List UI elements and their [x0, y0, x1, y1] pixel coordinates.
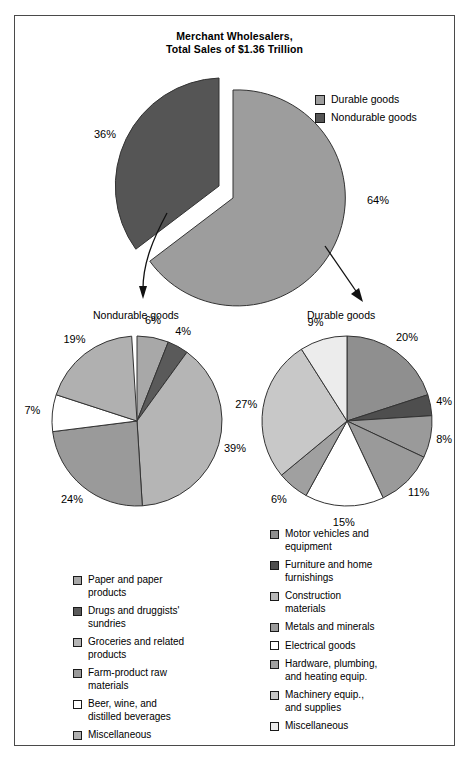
legend-label: Paper and paper products [88, 574, 163, 599]
legend-item: Electrical goods [270, 640, 435, 653]
legend-label: Furniture and home furnishings [285, 559, 372, 584]
legend-swatch [270, 641, 279, 650]
legend-item: Drugs and druggists' sundries [73, 605, 233, 630]
legend-label: Electrical goods [285, 640, 356, 653]
legend-swatch [270, 722, 279, 731]
pie-percent-label: 27% [235, 398, 257, 410]
legend-swatch [270, 691, 279, 700]
legend-item: Miscellaneous [73, 729, 233, 742]
legend-item: Metals and minerals [270, 621, 435, 634]
legend-item: Farm-product raw materials [73, 667, 233, 692]
legend-swatch [270, 561, 279, 570]
durable-legend: Motor vehicles and equipmentFurniture an… [270, 528, 435, 739]
legend-label-nondurable: Nondurable goods [331, 111, 417, 124]
legend-label: Groceries and related products [88, 636, 184, 661]
legend-label: Machinery equip., and supplies [285, 689, 364, 714]
legend-item: Miscellaneous [270, 720, 435, 733]
nondurable-legend: Paper and paper productsDrugs and druggi… [73, 574, 233, 748]
legend-label-durable: Durable goods [331, 93, 399, 106]
legend-swatch [270, 530, 279, 539]
legend-label: Hardware, plumbing, and heating equip. [285, 658, 377, 683]
pie-percent-label: 39% [224, 442, 246, 454]
pie-percent-label: 8% [436, 433, 452, 445]
legend-label: Miscellaneous [88, 729, 151, 742]
pie-slice [53, 421, 143, 506]
subchart-title-durable: Durable goods [307, 309, 375, 321]
pie-percent-label: 15% [333, 516, 355, 528]
legend-label: Metals and minerals [285, 621, 374, 634]
chart-frame: Merchant Wholesalers, Total Sales of $1.… [14, 15, 455, 746]
legend-swatch [73, 576, 82, 585]
page-title: Merchant Wholesalers, Total Sales of $1.… [15, 30, 454, 56]
pie-percent-label: 7% [24, 404, 40, 416]
legend-swatch [73, 669, 82, 678]
durable-pie-chart [257, 331, 437, 511]
arrow-to-nondurable-icon [115, 201, 235, 311]
legend-swatch [270, 623, 279, 632]
legend-swatch [270, 592, 279, 601]
arrow-to-durable-icon [315, 238, 405, 310]
legend-item: Groceries and related products [73, 636, 233, 661]
legend-swatch [73, 731, 82, 740]
legend-item: Hardware, plumbing, and heating equip. [270, 658, 435, 683]
legend-item: Machinery equip., and supplies [270, 689, 435, 714]
legend-item: Paper and paper products [73, 574, 233, 599]
legend-label: Farm-product raw materials [88, 667, 167, 692]
legend-label: Construction materials [285, 590, 341, 615]
legend-swatch [73, 607, 82, 616]
legend-item: Motor vehicles and equipment [270, 528, 435, 553]
nondurable-pie-chart [47, 331, 227, 511]
legend-label: Drugs and druggists' sundries [88, 605, 179, 630]
subchart-title-nondurable: Nondurable goods [93, 309, 179, 321]
title-line-2: Total Sales of $1.36 Trillion [15, 43, 454, 56]
title-line-1: Merchant Wholesalers, [15, 30, 454, 43]
pie-percent-label: 4% [436, 395, 452, 407]
durable-pie-slices [262, 336, 432, 506]
legend-label: Miscellaneous [285, 720, 348, 733]
nondurable-pie-slices [52, 336, 222, 506]
main-pie-label-nondurable: 36% [94, 128, 116, 140]
legend-label: Motor vehicles and equipment [285, 528, 369, 553]
legend-swatch [73, 638, 82, 647]
legend-item: Construction materials [270, 590, 435, 615]
main-pie-label-durable: 64% [367, 194, 389, 206]
legend-swatch [73, 700, 82, 709]
legend-label: Beer, wine, and distilled beverages [88, 698, 171, 723]
legend-item: Beer, wine, and distilled beverages [73, 698, 233, 723]
legend-item: Furniture and home furnishings [270, 559, 435, 584]
legend-swatch [270, 660, 279, 669]
